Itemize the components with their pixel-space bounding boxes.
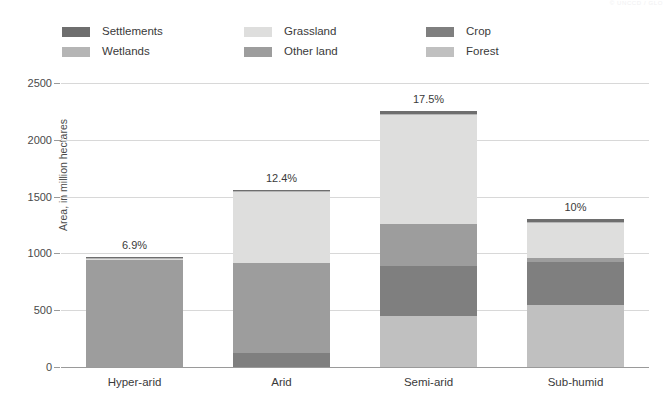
bar-segment-other-land[interactable] bbox=[86, 260, 183, 367]
legend-label: Grassland bbox=[284, 26, 336, 37]
y-tick-mark bbox=[54, 310, 60, 311]
bar-segment-forest[interactable] bbox=[380, 316, 477, 367]
bar-segment-grassland[interactable] bbox=[380, 115, 477, 224]
legend-label: Wetlands bbox=[102, 46, 150, 57]
bar-percentage-label: 17.5% bbox=[380, 93, 477, 105]
x-axis-line bbox=[61, 367, 649, 368]
bar-segment-wetlands[interactable] bbox=[527, 222, 624, 223]
bar-segment-grassland[interactable] bbox=[86, 259, 183, 261]
bar-group-hyper-arid[interactable]: 6.9% bbox=[86, 83, 183, 367]
legend-column: SettlementsWetlands bbox=[62, 22, 252, 62]
x-tick-label-arid: Arid bbox=[222, 376, 342, 388]
bar-percentage-label: 10% bbox=[527, 201, 624, 213]
bar-group-arid[interactable]: 12.4% bbox=[233, 83, 330, 367]
bar-segment-settlements[interactable] bbox=[86, 257, 183, 258]
bar-group-sub-humid[interactable]: 10% bbox=[527, 83, 624, 367]
bar-segment-settlements[interactable] bbox=[380, 111, 477, 114]
legend-swatch-icon bbox=[426, 27, 454, 37]
y-tick-mark bbox=[54, 253, 60, 254]
y-tick-label: 0 bbox=[46, 361, 52, 373]
legend-swatch-icon bbox=[244, 27, 272, 37]
x-tick-label-hyper-arid: Hyper-arid bbox=[75, 376, 195, 388]
legend-column: CropForest bbox=[426, 22, 616, 62]
bar-segment-other-land[interactable] bbox=[380, 224, 477, 267]
bar-segment-crop[interactable] bbox=[380, 266, 477, 315]
bar-segment-settlements[interactable] bbox=[233, 190, 330, 191]
bar-segment-forest[interactable] bbox=[527, 305, 624, 367]
bar-segment-wetlands[interactable] bbox=[380, 114, 477, 115]
y-tick-label: 500 bbox=[34, 304, 52, 316]
x-tick-label-semi-arid: Semi-arid bbox=[369, 376, 489, 388]
y-tick-label: 1500 bbox=[28, 191, 52, 203]
legend-item-wetlands[interactable]: Wetlands bbox=[62, 42, 252, 61]
y-tick-label: 2000 bbox=[28, 134, 52, 146]
bar-percentage-label: 12.4% bbox=[233, 172, 330, 184]
bar-segment-grassland[interactable] bbox=[233, 192, 330, 264]
bar-group-semi-arid[interactable]: 17.5% bbox=[380, 83, 477, 367]
bar-percentage-label: 6.9% bbox=[86, 239, 183, 251]
y-axis-title: Area, in million hectares bbox=[57, 119, 69, 231]
legend-label: Forest bbox=[466, 46, 499, 57]
legend-item-other-land[interactable]: Other land bbox=[244, 42, 434, 61]
legend-label: Crop bbox=[466, 26, 491, 37]
legend-swatch-icon bbox=[426, 47, 454, 57]
legend-item-settlements[interactable]: Settlements bbox=[62, 22, 252, 41]
bar-segment-settlements[interactable] bbox=[527, 219, 624, 222]
bar-segment-wetlands[interactable] bbox=[233, 191, 330, 192]
legend-swatch-icon bbox=[62, 47, 90, 57]
y-tick-mark bbox=[54, 367, 60, 368]
y-tick-label: 2500 bbox=[28, 77, 52, 89]
y-tick-mark bbox=[54, 83, 60, 84]
legend-label: Other land bbox=[284, 46, 338, 57]
bar-segment-crop[interactable] bbox=[233, 353, 330, 367]
y-tick-mark bbox=[54, 197, 60, 198]
y-tick-mark bbox=[54, 140, 60, 141]
chart-legend: SettlementsWetlandsGrasslandOther landCr… bbox=[62, 22, 622, 62]
bar-segment-other-land[interactable] bbox=[233, 263, 330, 353]
source-watermark: © UNCCD / GLO bbox=[610, 0, 663, 6]
legend-column: GrasslandOther land bbox=[244, 22, 434, 62]
bar-segment-grassland[interactable] bbox=[527, 223, 624, 258]
legend-swatch-icon bbox=[244, 47, 272, 57]
y-tick-label: 1000 bbox=[28, 247, 52, 259]
legend-item-crop[interactable]: Crop bbox=[426, 22, 616, 41]
legend-item-grassland[interactable]: Grassland bbox=[244, 22, 434, 41]
legend-label: Settlements bbox=[102, 26, 163, 37]
x-tick-label-sub-humid: Sub-humid bbox=[516, 376, 636, 388]
plot-area: Area, in million hectares 05001000150020… bbox=[61, 83, 649, 367]
legend-item-forest[interactable]: Forest bbox=[426, 42, 616, 61]
bar-segment-wetlands[interactable] bbox=[86, 258, 183, 259]
bar-segment-crop[interactable] bbox=[527, 262, 624, 305]
legend-swatch-icon bbox=[62, 27, 90, 37]
bar-segment-other-land[interactable] bbox=[527, 258, 624, 262]
chart-figure: © UNCCD / GLO SettlementsWetlandsGrassla… bbox=[0, 0, 669, 405]
